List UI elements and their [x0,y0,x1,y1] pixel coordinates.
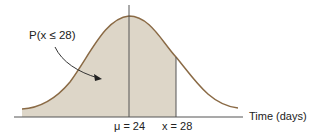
probability-label: P(x ≤ 28) [29,29,76,41]
x-value-label: x = 28 [162,120,192,132]
mean-label: μ = 24 [114,120,145,132]
axis-label: Time (days) [249,110,307,122]
